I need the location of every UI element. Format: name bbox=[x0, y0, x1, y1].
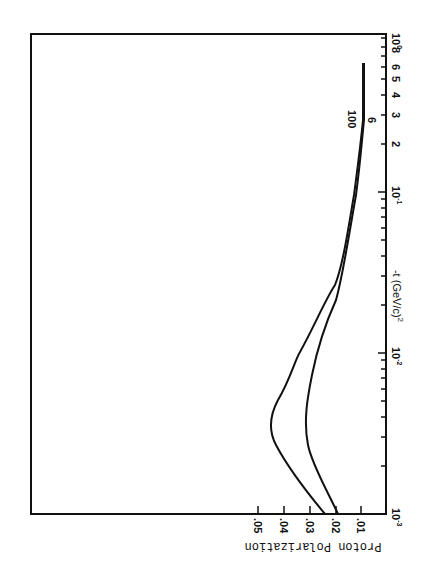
polarization-tick-labels: .05 .04 .03 .02 .01 bbox=[252, 518, 367, 534]
t-axis bbox=[378, 38, 386, 514]
polarization-axis bbox=[258, 506, 361, 514]
xtick-6: 6 bbox=[390, 64, 402, 70]
curve-label-6: 6 bbox=[366, 117, 378, 123]
ytick-04: .04 bbox=[278, 518, 290, 534]
xtick-1e-1: 10-1 bbox=[390, 186, 403, 205]
xtick-5: 5 bbox=[390, 76, 402, 82]
ytick-02: .02 bbox=[330, 518, 342, 533]
xtick-4: 4 bbox=[390, 92, 402, 99]
xtick-3: 3 bbox=[390, 112, 402, 118]
curve-6 bbox=[306, 63, 364, 514]
t-axis-title: -t (GeV/c)2 bbox=[391, 270, 405, 323]
xtick-2: 2 bbox=[390, 141, 402, 147]
polarization-axis-title: Proton Polarization bbox=[245, 539, 382, 553]
plot-frame bbox=[31, 34, 386, 514]
curve-100 bbox=[271, 63, 363, 514]
polarization-chart: .05 .04 .03 .02 .01 Proton Polarization bbox=[0, 0, 431, 567]
ytick-01: .01 bbox=[355, 518, 367, 533]
xtick-1e-2: 10-2 bbox=[390, 347, 403, 366]
ytick-03: .03 bbox=[304, 518, 316, 533]
ytick-05: .05 bbox=[252, 518, 264, 533]
curve-label-100: 100 bbox=[346, 110, 358, 128]
xtick-1e-3: 10-3 bbox=[390, 508, 403, 527]
